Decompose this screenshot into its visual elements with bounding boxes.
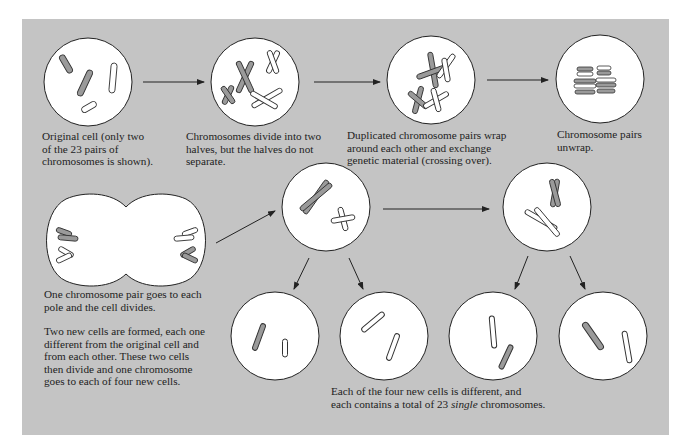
caption-original: Original cell (only two of the 23 pairs … [42, 130, 153, 168]
caption-four-cells: Each of the four new cells is different,… [331, 385, 545, 410]
cell-unwrap [556, 35, 644, 123]
arrow [294, 258, 309, 289]
cell-gamete-4 [559, 292, 647, 380]
arrow [515, 256, 528, 289]
caption-text: each contains a total of 23 [331, 398, 451, 410]
arrow [216, 211, 275, 243]
cell-gamete-2 [340, 292, 428, 380]
caption-line: around each other and exchange [347, 142, 506, 155]
caption-crossing-over: Duplicated chromosome pairs wrap around … [347, 129, 506, 167]
caption-emphasis: single [451, 398, 478, 410]
caption-line: halves, but the halves do not [186, 143, 321, 156]
caption-divide: Chromosomes divide into two halves, but … [186, 130, 321, 168]
caption-line: each contains a total of 23 single chrom… [331, 398, 545, 411]
cell-divide [211, 38, 299, 126]
caption-cell-divides: One chromosome pair goes to each pole an… [44, 288, 202, 313]
caption-line: then divide and one chromosome [44, 363, 205, 376]
caption-line: One chromosome pair goes to each [44, 288, 202, 301]
caption-line: Duplicated chromosome pairs wrap [347, 129, 506, 142]
cell-gamete-3 [449, 292, 537, 380]
caption-line: Original cell (only two [42, 130, 153, 143]
caption-line: Each of the four new cells is different,… [331, 385, 545, 398]
cell-dividing [47, 194, 206, 286]
caption-line: genetic material (crossing over). [347, 154, 506, 167]
arrow [570, 256, 585, 289]
caption-line: unwrap. [557, 141, 642, 154]
caption-line: different from the original cell and [44, 338, 205, 351]
caption-line: Two new cells are formed, each one [44, 325, 205, 338]
caption-line: from each other. These two cells [44, 350, 205, 363]
cell-gamete-1 [231, 292, 319, 380]
cell-crossing-over [387, 36, 475, 124]
caption-line: Chromosomes divide into two [186, 130, 321, 143]
cell-daughter-2 [503, 163, 591, 251]
cell-original [44, 38, 132, 126]
caption-line: separate. [186, 155, 321, 168]
arrow [349, 258, 363, 289]
caption-two-cells: Two new cells are formed, each one diffe… [44, 325, 205, 388]
caption-line: pole and the cell divides. [44, 301, 202, 314]
caption-unwrap: Chromosome pairs unwrap. [557, 128, 642, 153]
caption-line: goes to each of four new cells. [44, 375, 205, 388]
caption-text: chromosomes. [478, 398, 546, 410]
caption-line: Chromosome pairs [557, 128, 642, 141]
caption-line: chromosomes is shown). [42, 155, 153, 168]
caption-line: of the 23 pairs of [42, 143, 153, 156]
cell-daughter-1 [282, 163, 370, 251]
